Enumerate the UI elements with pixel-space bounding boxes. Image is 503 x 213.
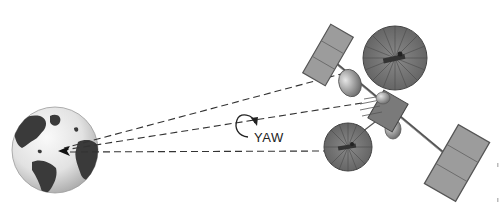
dish-antenna-upper xyxy=(363,26,427,90)
dish-antenna-lower xyxy=(324,123,372,171)
earth-globe xyxy=(12,107,99,194)
signal-beam-middle xyxy=(64,103,362,150)
signal-beam-lower xyxy=(64,151,330,152)
edge-marks xyxy=(497,163,499,202)
yaw-label: YAW xyxy=(254,130,284,145)
signal-beams xyxy=(64,73,362,152)
diagram-canvas: YAW xyxy=(0,0,503,213)
signal-beam-upper xyxy=(64,73,345,148)
fuel-tank-upper xyxy=(335,66,365,100)
solar-panel-lower-right xyxy=(424,125,489,202)
satellite xyxy=(303,24,490,201)
